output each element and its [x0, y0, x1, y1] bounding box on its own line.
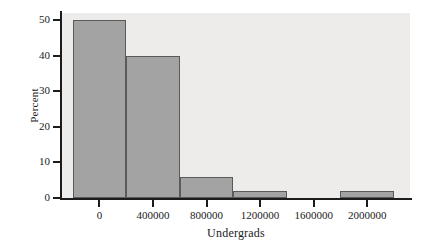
y-tick-mark	[53, 161, 60, 163]
x-tick-label: 1200000	[241, 209, 280, 221]
y-axis-title: Percent	[26, 13, 42, 198]
histogram-bar	[73, 20, 127, 198]
y-tick-mark	[53, 19, 60, 21]
y-tick-mark	[53, 90, 60, 92]
x-tick-label: 2000000	[348, 209, 387, 221]
x-tick-mark	[206, 200, 208, 207]
y-tick-mark	[53, 197, 60, 199]
histogram-bar	[180, 177, 234, 198]
histogram-bar	[233, 191, 287, 198]
x-tick-mark	[152, 200, 154, 207]
x-tick-mark	[259, 200, 261, 207]
y-tick-mark	[53, 126, 60, 128]
x-tick-label: 0	[97, 209, 103, 221]
y-tick-mark	[53, 55, 60, 57]
x-tick-label: 800000	[190, 209, 223, 221]
histogram-figure: 0 10 20 30 40 50 0 400000 800000 1200000…	[0, 0, 432, 251]
x-tick-mark	[366, 200, 368, 207]
x-tick-mark	[98, 200, 100, 207]
x-tick-mark	[313, 200, 315, 207]
histogram-bar	[126, 56, 180, 198]
y-axis-line	[60, 11, 62, 200]
x-tick-label: 1600000	[294, 209, 333, 221]
x-axis-title: Undergrads	[62, 226, 410, 241]
plot-area	[62, 13, 410, 198]
x-axis-line	[60, 198, 412, 200]
histogram-bar	[340, 191, 394, 198]
y-tick-label: 0	[45, 192, 51, 203]
x-tick-label: 400000	[137, 209, 170, 221]
